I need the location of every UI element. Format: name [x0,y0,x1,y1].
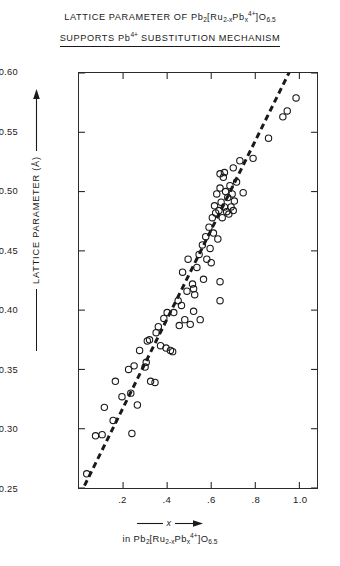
data-point [231,198,237,204]
data-point [227,182,233,188]
data-point [284,108,290,114]
y-axis-arrow-icon [33,89,40,151]
data-point [197,316,203,322]
data-point [229,191,235,197]
data-point [134,402,140,408]
data-point [101,404,107,410]
data-point [206,224,212,230]
data-point [237,158,243,164]
y-axis-title-text: LATTICE PARAMETER (Å) [31,156,41,284]
y-tick-label: 10.50 [0,186,18,196]
data-point [192,292,198,298]
data-point [200,276,206,282]
data-point [152,379,158,385]
data-point [217,297,223,303]
data-point [184,288,190,294]
x-axis-formula: in Pb2[Ru2-xPbx4+]O6.5 [0,532,340,545]
data-point [217,279,223,285]
data-point [169,348,175,354]
plot-area [78,72,318,489]
data-point [147,378,153,384]
data-point [185,256,191,262]
data-point [179,269,185,275]
data-point [190,308,196,314]
title-line-1: LATTICE PARAMETER OF Pb2[Ru2-xPbx4+]O6.5 [64,7,275,27]
data-point [230,165,236,171]
data-point [219,214,225,220]
data-point [99,431,105,437]
data-point [214,191,220,197]
data-point [194,264,200,270]
y-axis-title: LATTICE PARAMETER (Å) [26,80,46,360]
scatter-plot-canvas [79,73,317,488]
x-tick-label: 1.0 [280,495,320,505]
data-point [119,394,125,400]
data-point [250,155,256,161]
data-point [265,135,271,141]
trend-line [85,73,290,486]
data-point [161,315,167,321]
x-axis-title: x in Pb2[Ru2-xPbx4+]O6.5 [0,516,340,545]
y-tick-label: 10.60 [0,67,18,77]
data-point [112,378,118,384]
data-point [215,236,221,242]
x-tick-label: .6 [191,495,231,505]
y-tick-label: 10.25 [0,484,18,494]
y-axis-rule [36,289,37,351]
x-axis-variable: x [167,518,172,528]
x-axis-arrow-row: x [0,516,340,530]
x-tick-label: .2 [102,495,142,505]
data-points [84,95,300,477]
x-tick-label: .4 [147,495,187,505]
data-point [207,245,213,251]
data-point [240,190,246,196]
x-tick-label: .8 [236,495,276,505]
data-point [131,363,137,369]
data-point [203,233,209,239]
y-tick-label: 10.35 [0,365,18,375]
y-tick-label: 10.45 [0,246,18,256]
data-point [176,322,182,328]
data-point [92,433,98,439]
x-axis-rule-icon [137,520,163,527]
data-point [187,321,193,327]
data-point [136,347,142,353]
y-tick-label: 10.30 [0,424,18,434]
data-point [208,260,214,266]
data-point [129,430,135,436]
data-point [293,95,299,101]
chart-title: LATTICE PARAMETER OF Pb2[Ru2-xPbx4+]O6.5… [0,6,340,47]
y-tick-label: 10.40 [0,305,18,315]
data-point [155,324,161,330]
data-point [204,256,210,262]
data-point [178,302,184,308]
data-point [182,316,188,322]
title-line-2: SUPPORTS Pb4+ SUBSTITUTION MECHANISM [60,28,281,47]
data-point [146,337,152,343]
y-tick-label: 10.55 [0,127,18,137]
x-axis-arrow-icon [175,520,203,527]
data-point [280,114,286,120]
